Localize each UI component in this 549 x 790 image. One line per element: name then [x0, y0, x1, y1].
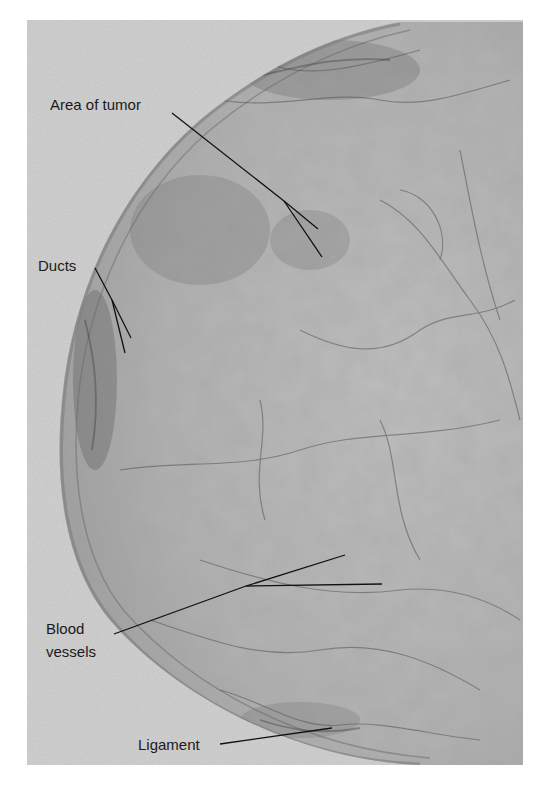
mammogram-figure [0, 0, 549, 790]
label-ducts: Ducts [38, 257, 76, 275]
label-blood-vessels-line2: vessels [46, 643, 96, 661]
label-area-of-tumor: Area of tumor [50, 96, 141, 114]
label-ligament: Ligament [138, 736, 200, 754]
label-blood-vessels-line1: Blood [46, 620, 84, 638]
